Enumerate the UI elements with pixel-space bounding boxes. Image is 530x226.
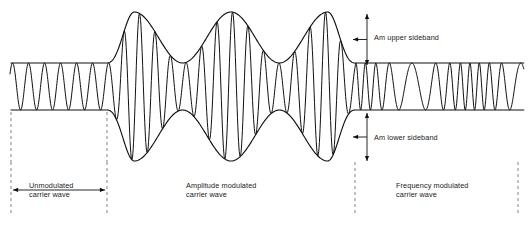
label-am-lower-sideband: Am lower sideband [374, 133, 438, 142]
label-am-upper-sideband: Am upper sideband [374, 33, 439, 42]
label-amplitude-modulated-carrier-wave: Amplitude modulated carrier wave [186, 181, 256, 200]
label-frequency-modulated-carrier-wave: Frequency modulated carrier wave [396, 181, 468, 200]
modulation-diagram: Am upper sideband Am lower sideband Unmo… [0, 0, 530, 226]
measurement-arrows [13, 14, 369, 198]
label-unmodulated-carrier-wave: Unmodulated carrier wave [29, 181, 74, 200]
